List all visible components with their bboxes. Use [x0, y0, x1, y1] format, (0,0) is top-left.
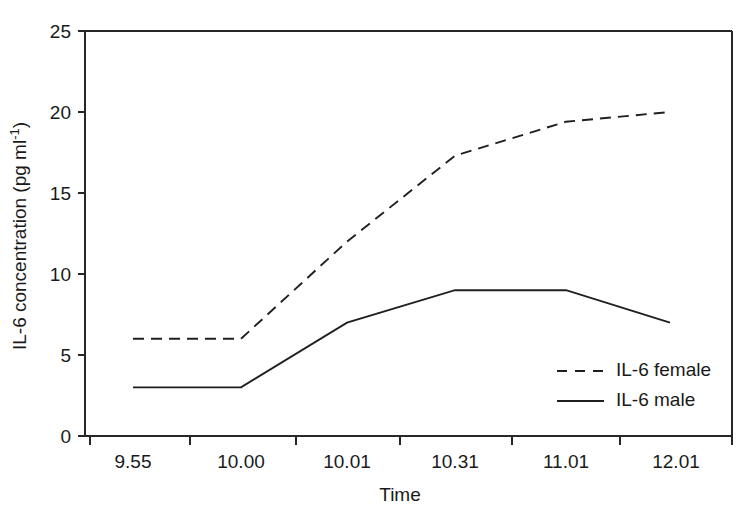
- y-tick-label-15: 15: [50, 183, 71, 204]
- x-tick-label-0: 9.55: [115, 451, 152, 472]
- y-axis-title: IL-6 concentration (pg ml-1): [7, 122, 30, 350]
- x-tick-label-4: 11.01: [543, 451, 589, 472]
- chart-legend: IL-6 female IL-6 male: [557, 359, 711, 410]
- y-axis-title-tail: ): [9, 122, 30, 128]
- chart-figure: 0 5 10 15 20 25 9.55 10.00 10.01 10.31 1…: [0, 0, 749, 511]
- x-axis-title: Time: [379, 484, 421, 505]
- y-tick-label-25: 25: [50, 21, 71, 42]
- legend-label-male: IL-6 male: [616, 389, 695, 410]
- y-tick-label-20: 20: [50, 102, 71, 123]
- x-tick-label-2: 10.01: [323, 451, 371, 472]
- y-tick-label-5: 5: [60, 345, 71, 366]
- y-axis-title-main: IL-6 concentration (pg ml: [9, 140, 30, 350]
- y-axis-title-superscript: -1: [7, 128, 22, 140]
- legend-label-female: IL-6 female: [616, 359, 711, 380]
- x-tick-label-3: 10.31: [431, 451, 479, 472]
- x-tick-label-1: 10.00: [217, 451, 265, 472]
- series-line-il6-female: [133, 112, 670, 339]
- y-tick-label-0: 0: [60, 426, 71, 447]
- x-tick-label-5: 12.01: [652, 451, 700, 472]
- y-tick-label-10: 10: [50, 264, 71, 285]
- il6-concentration-line-chart: 0 5 10 15 20 25 9.55 10.00 10.01 10.31 1…: [0, 0, 749, 511]
